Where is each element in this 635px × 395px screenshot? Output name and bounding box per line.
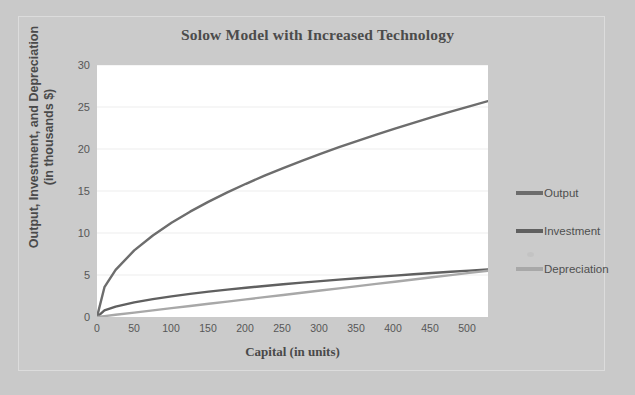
y-axis-title-line1: Output, Investment, and Depreciation bbox=[27, 26, 41, 248]
x-tick-label-500: 500 bbox=[447, 322, 487, 334]
x-tick-label-450: 450 bbox=[410, 322, 450, 334]
legend-label-output: Output bbox=[543, 187, 579, 199]
y-axis-title-line2: (in thousands $) bbox=[42, 89, 56, 186]
y-axis-title: Output, Investment, and Depreciation (in… bbox=[27, 12, 57, 262]
x-tick-label-250: 250 bbox=[262, 322, 302, 334]
scan-artifact bbox=[527, 252, 534, 257]
chart-figure: Solow Model with Increased Technology Ou… bbox=[0, 0, 635, 395]
x-tick-label-200: 200 bbox=[225, 322, 265, 334]
legend-swatch-depreciation bbox=[516, 267, 543, 271]
x-tick-label-400: 400 bbox=[373, 322, 413, 334]
x-tick-label-350: 350 bbox=[336, 322, 376, 334]
plot-svg bbox=[97, 65, 488, 317]
x-tick-label-50: 50 bbox=[114, 322, 154, 334]
y-tick-label-25: 25 bbox=[56, 101, 90, 113]
y-tick-label-30: 30 bbox=[56, 59, 90, 71]
x-axis-title: Capital (in units) bbox=[97, 344, 488, 360]
x-tick-label-150: 150 bbox=[188, 322, 228, 334]
legend-item-output[interactable]: Output bbox=[516, 183, 628, 202]
y-tick-label-20: 20 bbox=[56, 143, 90, 155]
legend-item-investment[interactable]: Investment bbox=[516, 221, 628, 240]
legend-label-depreciation: Depreciation bbox=[543, 263, 609, 275]
plot-area bbox=[97, 65, 488, 317]
legend-item-depreciation[interactable]: Depreciation bbox=[516, 259, 628, 278]
legend-swatch-investment bbox=[516, 229, 543, 233]
legend-swatch-output bbox=[516, 191, 543, 195]
x-tick-label-0: 0 bbox=[77, 322, 117, 334]
legend-label-investment: Investment bbox=[543, 225, 600, 237]
gridlines bbox=[97, 65, 488, 275]
y-tick-label-5: 5 bbox=[56, 269, 90, 281]
series-lines bbox=[97, 101, 488, 317]
y-tick-label-15: 15 bbox=[56, 185, 90, 197]
x-tick-label-300: 300 bbox=[299, 322, 339, 334]
chart-title: Solow Model with Increased Technology bbox=[0, 26, 635, 44]
x-tick-label-100: 100 bbox=[151, 322, 191, 334]
chart-legend: Output Investment Depreciation bbox=[516, 183, 628, 297]
y-tick-label-10: 10 bbox=[56, 227, 90, 239]
